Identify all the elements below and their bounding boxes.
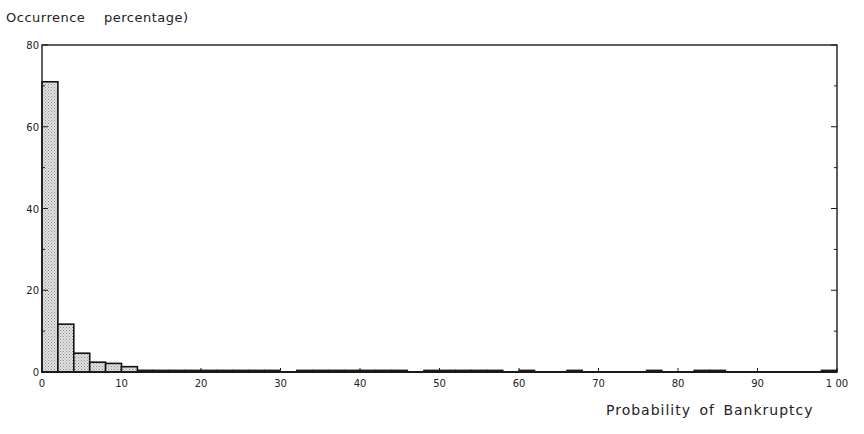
x-tick-label: 40 xyxy=(354,378,367,389)
x-tick-label: 10 xyxy=(115,378,128,389)
y-tick-label: 0 xyxy=(33,367,39,378)
histogram-bar xyxy=(74,353,90,372)
histogram-chart: 01020304050607080901 00 020406080 xyxy=(0,0,864,434)
histogram-bar xyxy=(58,324,74,372)
y-tick-label: 80 xyxy=(26,40,39,51)
y-tick-label: 40 xyxy=(26,204,39,215)
x-tick-label: 1 00 xyxy=(826,378,848,389)
histogram-bar xyxy=(42,82,58,372)
x-tick-label: 20 xyxy=(195,378,208,389)
histogram-bar xyxy=(90,362,106,372)
x-tick-label: 60 xyxy=(513,378,526,389)
y-tick-label: 20 xyxy=(26,285,39,296)
y-tick-label: 60 xyxy=(26,122,39,133)
histogram-bar xyxy=(106,363,122,372)
x-tick-label: 30 xyxy=(274,378,287,389)
histogram-bars xyxy=(42,82,837,372)
plot-frame xyxy=(42,45,837,372)
y-axis-ticks: 020406080 xyxy=(26,40,837,378)
x-tick-label: 80 xyxy=(672,378,685,389)
x-tick-label: 70 xyxy=(592,378,605,389)
x-tick-label: 50 xyxy=(433,378,446,389)
x-tick-label: 0 xyxy=(39,378,45,389)
x-tick-label: 90 xyxy=(751,378,764,389)
